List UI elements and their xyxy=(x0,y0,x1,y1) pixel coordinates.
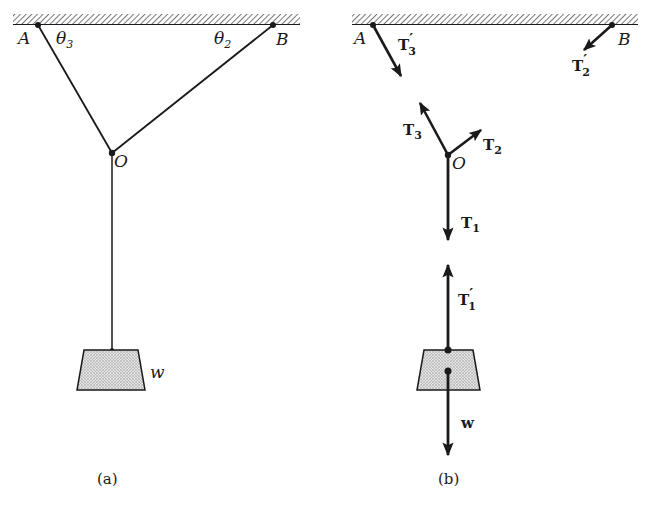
label-O-b: O xyxy=(452,153,466,173)
panel-a: A B O θ3 θ2 w (a) xyxy=(13,14,300,488)
label-T3: T3 xyxy=(403,121,422,142)
panel-b: A B T′3 T′2 O T3 T2 T1 T′1 xyxy=(352,14,638,488)
angle-theta2: θ2 xyxy=(214,28,231,51)
label-B-b: B xyxy=(617,29,631,49)
label-w: w xyxy=(460,414,475,432)
label-T1-prime: T′1 xyxy=(458,285,476,313)
vector-T2 xyxy=(448,130,481,155)
label-weight-a: w xyxy=(150,362,165,382)
point-B-dot xyxy=(270,22,276,28)
force-diagram: A B O θ3 θ2 w (a) A B T′3 T′2 O xyxy=(0,0,649,519)
string-AO xyxy=(38,25,112,153)
label-A-b: A xyxy=(352,28,366,48)
point-A-dot xyxy=(35,22,41,28)
label-O: O xyxy=(114,151,128,171)
label-T2: T2 xyxy=(483,136,502,157)
label-T2-prime: T′2 xyxy=(572,51,590,79)
caption-a: (a) xyxy=(97,470,118,488)
string-BO xyxy=(112,25,273,153)
weight-top-dot xyxy=(445,347,452,354)
vector-T3-prime xyxy=(373,25,401,76)
vector-T2-prime xyxy=(584,25,612,50)
weight-block-a xyxy=(77,350,145,390)
caption-b: (b) xyxy=(438,470,459,488)
ceiling-b xyxy=(352,14,638,24)
label-T3-prime: T′3 xyxy=(398,30,416,58)
label-B: B xyxy=(275,29,289,49)
label-A: A xyxy=(16,28,30,48)
label-T1: T1 xyxy=(461,214,480,235)
vector-T3 xyxy=(420,103,448,155)
ceiling-a xyxy=(13,14,300,24)
angle-theta3: θ3 xyxy=(56,28,73,51)
